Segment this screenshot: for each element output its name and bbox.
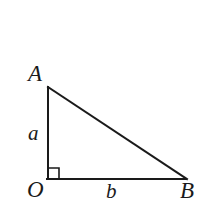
right-triangle-figure: A O B a b (0, 0, 209, 213)
vertex-label-A: A (28, 62, 42, 85)
vertex-label-O: O (27, 178, 44, 201)
hypotenuse-AB (48, 87, 187, 179)
right-angle-marker-icon (48, 168, 59, 179)
vertex-label-B: B (180, 179, 194, 202)
side-label-a: a (28, 123, 39, 144)
side-label-b: b (106, 181, 117, 202)
